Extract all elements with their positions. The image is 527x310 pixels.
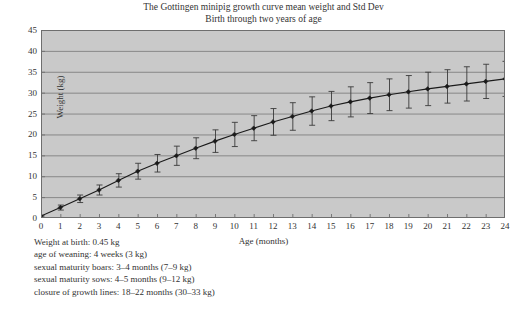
x-tick-label: 20 <box>423 221 432 231</box>
plot-canvas <box>41 30 505 218</box>
x-tick-label: 7 <box>174 221 179 231</box>
x-tick-label: 5 <box>135 221 140 231</box>
y-tick-label: 35 <box>7 67 37 77</box>
x-tick-label: 4 <box>116 221 121 231</box>
x-tick-label: 14 <box>307 221 316 231</box>
y-axis-label: Weight (kg) <box>55 52 65 142</box>
x-tick-label: 19 <box>404 221 413 231</box>
y-tick-label: 20 <box>7 129 37 139</box>
chart-title-line-2: Birth through two years of age <box>0 14 527 26</box>
x-tick-label: 15 <box>327 221 336 231</box>
caption-line: age of weaning: 4 weeks (3 kg) <box>34 248 215 260</box>
y-tick-label: 0 <box>7 213 37 223</box>
x-tick-label: 10 <box>230 221 239 231</box>
x-tick-label: 3 <box>97 221 102 231</box>
x-tick-label: 1 <box>58 221 63 231</box>
x-tick-label: 2 <box>77 221 82 231</box>
x-tick-label: 0 <box>39 221 44 231</box>
caption-line: sexual maturity sows: 4–5 months (9–12 k… <box>34 273 215 285</box>
y-tick-label: 10 <box>7 171 37 181</box>
x-tick-label: 22 <box>462 221 471 231</box>
x-tick-label: 16 <box>346 221 355 231</box>
x-tick-label: 8 <box>193 221 198 231</box>
y-tick-label: 45 <box>7 25 37 35</box>
y-tick-label: 30 <box>7 88 37 98</box>
x-tick-label: 11 <box>249 221 258 231</box>
y-tick-label: 5 <box>7 192 37 202</box>
x-tick-label: 6 <box>155 221 160 231</box>
x-tick-label: 24 <box>501 221 510 231</box>
chart-figure: The Gottingen minipig growth curve mean … <box>0 0 527 310</box>
x-tick-label: 18 <box>385 221 394 231</box>
y-tick-label: 40 <box>7 46 37 56</box>
y-tick-label: 15 <box>7 150 37 160</box>
caption-line: sexual maturity boars: 3–4 months (7–9 k… <box>34 261 215 273</box>
plot-area: Weight (kg) 051015202530354045 012345678… <box>41 30 505 218</box>
y-tick-label: 25 <box>7 109 37 119</box>
caption-line: closure of growth lines: 18–22 months (3… <box>34 286 215 298</box>
x-tick-label: 13 <box>288 221 297 231</box>
chart-title-line-1: The Gottingen minipig growth curve mean … <box>0 2 527 14</box>
caption-line: Weight at birth: 0.45 kg <box>34 236 215 248</box>
chart-caption: Weight at birth: 0.45 kgage of weaning: … <box>34 236 215 298</box>
x-tick-label: 21 <box>443 221 452 231</box>
x-tick-label: 12 <box>269 221 278 231</box>
x-tick-label: 9 <box>213 221 218 231</box>
x-tick-label: 17 <box>365 221 374 231</box>
chart-title: The Gottingen minipig growth curve mean … <box>0 2 527 25</box>
x-tick-label: 23 <box>481 221 490 231</box>
